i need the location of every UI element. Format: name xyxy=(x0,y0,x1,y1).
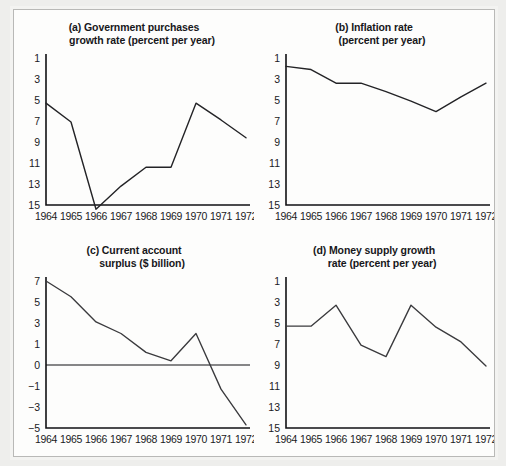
y-tick-label-b-2: 5 xyxy=(274,94,280,106)
x-tick-label-b-1: 1965 xyxy=(300,210,323,222)
x-tick-label-a-0: 1964 xyxy=(35,210,58,222)
y-axis-ticks-b: 13579111315 xyxy=(268,52,280,211)
y-tick-label-a-0: 1 xyxy=(34,52,40,64)
x-tick-label-c-0: 1964 xyxy=(35,433,58,445)
x-tick-label-b-7: 1971 xyxy=(450,210,473,222)
x-tick-label-c-4: 1968 xyxy=(135,433,158,445)
chart-panel-d: (d) Money supply growth rate (percent pe… xyxy=(254,236,494,459)
y-tick-label-d-6: 13 xyxy=(268,401,280,413)
x-tick-label-c-1: 1965 xyxy=(60,433,83,445)
x-tick-label-b-2: 1966 xyxy=(325,210,348,222)
x-tick-label-a-1: 1965 xyxy=(60,210,83,222)
y-tick-label-c-2: 3 xyxy=(34,317,40,329)
y-tick-label-c-3: 1 xyxy=(34,338,40,350)
axis-lines-a xyxy=(46,54,250,205)
y-tick-label-c-6: −3 xyxy=(28,401,40,413)
x-tick-label-c-8: 1972 xyxy=(235,433,254,445)
y-tick-label-b-6: 13 xyxy=(268,178,280,190)
x-tick-label-d-8: 1972 xyxy=(475,433,494,445)
x-tick-label-d-0: 1964 xyxy=(275,433,298,445)
x-tick-label-d-2: 1966 xyxy=(325,433,348,445)
y-axis-ticks-a: 13579111315 xyxy=(28,52,40,211)
chart-panel-b: (b) Inflation rate (percent per year) 13… xyxy=(254,13,494,236)
x-axis-ticks-b: 196419651966196719681969197019711972 xyxy=(275,210,494,222)
x-tick-label-a-6: 1970 xyxy=(185,210,208,222)
y-tick-label-a-7: 15 xyxy=(28,199,40,211)
y-tick-label-b-5: 11 xyxy=(269,157,280,169)
x-tick-label-c-2: 1966 xyxy=(85,433,108,445)
x-tick-label-d-5: 1969 xyxy=(400,433,423,445)
figure-panel: (a) Government purchases growth rate (pe… xyxy=(13,9,495,457)
chart-svg-b: 13579111315 1964196519661967196819691970… xyxy=(254,13,494,236)
y-tick-label-a-3: 7 xyxy=(34,115,40,127)
x-tick-label-b-5: 1969 xyxy=(400,210,423,222)
figure-page: (a) Government purchases growth rate (pe… xyxy=(0,0,506,466)
y-tick-label-b-4: 9 xyxy=(274,136,280,148)
x-tick-label-a-5: 1969 xyxy=(160,210,183,222)
x-tick-label-a-3: 1967 xyxy=(110,210,133,222)
series-line-a xyxy=(46,103,246,209)
x-tick-label-b-8: 1972 xyxy=(475,210,494,222)
x-tick-label-a-4: 1968 xyxy=(135,210,158,222)
x-tick-label-b-6: 1970 xyxy=(425,210,448,222)
x-tick-label-d-4: 1968 xyxy=(375,433,398,445)
chart-panel-a: (a) Government purchases growth rate (pe… xyxy=(14,13,254,236)
y-tick-label-d-3: 7 xyxy=(274,338,280,350)
x-tick-label-c-7: 1971 xyxy=(210,433,233,445)
y-tick-label-b-7: 15 xyxy=(268,199,280,211)
y-tick-label-d-1: 3 xyxy=(274,296,280,308)
y-tick-label-c-4: 0 xyxy=(34,359,40,371)
y-axis-ticks-c: 75310−1−3−5 xyxy=(28,275,40,434)
y-axis-ticks-d: 13579111315 xyxy=(268,275,280,434)
y-tick-label-a-6: 13 xyxy=(28,178,40,190)
x-tick-label-b-0: 1964 xyxy=(275,210,298,222)
x-axis-ticks-a: 196419651966196719681969197019711972 xyxy=(35,210,254,222)
y-tick-label-a-1: 3 xyxy=(34,73,40,85)
y-tick-label-d-7: 15 xyxy=(268,422,280,434)
x-tick-label-d-1: 1965 xyxy=(300,433,323,445)
y-tick-label-a-4: 9 xyxy=(34,136,40,148)
x-tick-label-c-6: 1970 xyxy=(185,433,208,445)
y-tick-label-d-4: 9 xyxy=(274,359,280,371)
y-tick-label-a-5: 11 xyxy=(29,157,40,169)
series-line-c xyxy=(46,281,246,425)
y-tick-label-a-2: 5 xyxy=(34,94,40,106)
x-tick-label-c-5: 1969 xyxy=(160,433,183,445)
chart-svg-c: 75310−1−3−5 1964196519661967196819691970… xyxy=(14,236,254,459)
y-tick-label-c-0: 7 xyxy=(34,275,40,287)
y-tick-label-c-5: −1 xyxy=(28,380,40,392)
series-line-b xyxy=(286,66,486,111)
chart-grid: (a) Government purchases growth rate (pe… xyxy=(14,10,494,456)
x-tick-label-a-2: 1966 xyxy=(85,210,108,222)
axis-lines-b xyxy=(286,54,490,205)
x-tick-label-a-8: 1972 xyxy=(235,210,254,222)
x-axis-ticks-d: 196419651966196719681969197019711972 xyxy=(275,433,494,445)
chart-panel-c: (c) Current account surplus ($ billion) … xyxy=(14,236,254,459)
x-tick-label-b-4: 1968 xyxy=(375,210,398,222)
y-tick-label-d-2: 5 xyxy=(274,317,280,329)
y-tick-label-c-7: −5 xyxy=(28,422,40,434)
y-tick-label-b-1: 3 xyxy=(274,73,280,85)
y-tick-label-d-0: 1 xyxy=(274,275,280,287)
y-tick-label-d-5: 11 xyxy=(269,380,280,392)
x-tick-label-d-6: 1970 xyxy=(425,433,448,445)
x-tick-label-d-3: 1967 xyxy=(350,433,373,445)
series-line-d xyxy=(286,305,486,366)
y-tick-label-c-1: 5 xyxy=(34,296,40,308)
chart-svg-d: 13579111315 1964196519661967196819691970… xyxy=(254,236,494,459)
x-tick-label-a-7: 1971 xyxy=(210,210,233,222)
x-axis-ticks-c: 196419651966196719681969197019711972 xyxy=(35,433,254,445)
y-tick-label-b-0: 1 xyxy=(274,52,280,64)
x-tick-label-c-3: 1967 xyxy=(110,433,133,445)
x-tick-label-b-3: 1967 xyxy=(350,210,373,222)
y-tick-label-b-3: 7 xyxy=(274,115,280,127)
chart-svg-a: 13579111315 1964196519661967196819691970… xyxy=(14,13,254,236)
x-tick-label-d-7: 1971 xyxy=(450,433,473,445)
